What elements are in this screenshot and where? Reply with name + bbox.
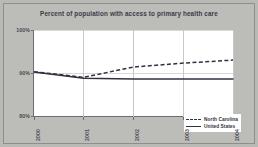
x-tick-mark-2000 bbox=[34, 117, 35, 120]
y-axis-tick-90: 90% bbox=[0, 70, 30, 76]
series-line-united-states bbox=[34, 72, 233, 79]
series-lines bbox=[34, 30, 234, 117]
chart-title: Percent of population with access to pri… bbox=[0, 10, 258, 17]
plot-area: North Carolina United States bbox=[33, 30, 233, 117]
x-axis-tick-2001: 2001 bbox=[84, 129, 90, 141]
y-axis-tick-80: 80% bbox=[0, 113, 30, 119]
x-axis-tick-2003: 2003 bbox=[184, 129, 190, 141]
x-tick-mark-2002 bbox=[133, 117, 134, 120]
chart-legend: North Carolina United States bbox=[184, 114, 241, 132]
legend-item-united-states: United States bbox=[186, 123, 238, 130]
legend-label-north-carolina: North Carolina bbox=[204, 117, 238, 122]
legend-swatch-dashed-icon bbox=[186, 119, 201, 120]
x-axis-tick-2004: 2004 bbox=[234, 129, 240, 141]
legend-label-united-states: United States bbox=[204, 124, 235, 129]
legend-swatch-solid-icon bbox=[186, 126, 201, 127]
legend-item-north-carolina: North Carolina bbox=[186, 116, 238, 123]
x-axis-tick-2002: 2002 bbox=[134, 129, 140, 141]
chart-card: Percent of population with access to pri… bbox=[0, 0, 258, 147]
y-axis-tick-100: 100% bbox=[0, 27, 30, 33]
series-line-north-carolina bbox=[34, 60, 233, 77]
x-axis-tick-2000: 2000 bbox=[35, 129, 41, 141]
x-tick-mark-2001 bbox=[83, 117, 84, 120]
